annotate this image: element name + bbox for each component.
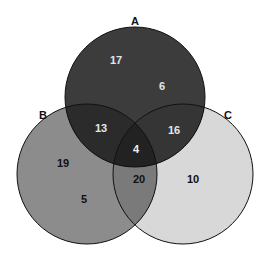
label-c: C xyxy=(224,109,232,121)
venn-diagram: A B C 17 6 13 16 4 20 19 5 10 xyxy=(0,0,268,257)
count-a-only-right: 6 xyxy=(159,80,165,92)
label-b: B xyxy=(39,109,47,121)
count-a-only-upper: 17 xyxy=(110,54,122,66)
venn-svg: A B C 17 6 13 16 4 20 19 5 10 xyxy=(0,0,268,257)
count-c-only: 10 xyxy=(187,173,199,185)
count-a-b-c: 4 xyxy=(133,143,140,155)
label-a: A xyxy=(131,15,139,27)
count-b-only-upper: 19 xyxy=(57,157,69,169)
count-a-c: 16 xyxy=(168,124,180,136)
count-b-only-lower: 5 xyxy=(81,193,87,205)
count-a-b: 13 xyxy=(95,122,107,134)
count-b-c: 20 xyxy=(133,173,145,185)
